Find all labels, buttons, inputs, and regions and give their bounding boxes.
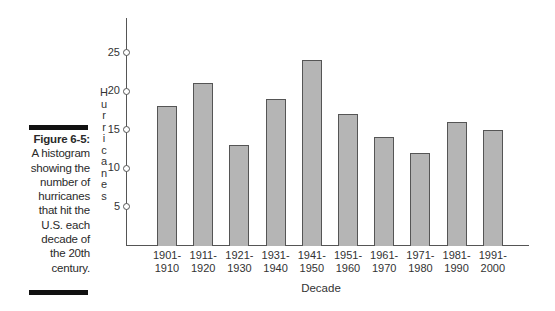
y-tick-label: 15 bbox=[100, 123, 120, 135]
bar-1901-1910 bbox=[157, 106, 177, 246]
x-tick-label-line: 1930 bbox=[219, 262, 259, 275]
y-tick-label: 20 bbox=[100, 84, 120, 96]
x-tick-label: 1951-1960 bbox=[328, 249, 368, 275]
bar-1971-1980 bbox=[410, 153, 430, 246]
histogram-chart: Hurricanes 510152025 1901-19101911-19201… bbox=[0, 0, 555, 311]
x-tick-label-line: 1931- bbox=[256, 249, 296, 262]
x-tick-label: 1911-1920 bbox=[183, 249, 223, 275]
y-tick-marker bbox=[123, 49, 130, 56]
x-tick-label: 1961-1970 bbox=[364, 249, 404, 275]
bar-1921-1930 bbox=[229, 145, 249, 246]
y-axis-title: Hurricanes bbox=[99, 87, 109, 202]
x-tick-label: 1901-1910 bbox=[147, 249, 187, 275]
y-tick-label: 5 bbox=[100, 200, 120, 212]
x-tick-label: 1931-1940 bbox=[256, 249, 296, 275]
y-tick-label: 10 bbox=[100, 161, 120, 173]
x-tick-label-line: 1960 bbox=[328, 262, 368, 275]
y-tick-marker bbox=[123, 126, 130, 133]
x-tick-label-line: 1901- bbox=[147, 249, 187, 262]
x-tick-label-line: 1970 bbox=[364, 262, 404, 275]
x-tick-label-line: 1940 bbox=[256, 262, 296, 275]
y-tick-label: 25 bbox=[100, 46, 120, 58]
y-axis-title-letter: r bbox=[99, 110, 109, 122]
y-axis-title-letter: i bbox=[99, 133, 109, 145]
x-tick-label-line: 2000 bbox=[473, 262, 513, 275]
x-axis bbox=[126, 245, 529, 246]
x-tick-label: 1971-1980 bbox=[400, 249, 440, 275]
bar-1991-2000 bbox=[483, 130, 503, 247]
x-tick-label-line: 1921- bbox=[219, 249, 259, 262]
y-tick-marker bbox=[123, 165, 130, 172]
x-axis-title: Decade bbox=[296, 282, 346, 294]
y-tick-marker bbox=[123, 203, 130, 210]
x-tick-label: 1981-1990 bbox=[437, 249, 477, 275]
x-tick-label-line: 1951- bbox=[328, 249, 368, 262]
x-tick-label-line: 1961- bbox=[364, 249, 404, 262]
bar-1981-1990 bbox=[447, 122, 467, 246]
x-tick-label: 1941-1950 bbox=[292, 249, 332, 275]
x-tick-label: 1991-2000 bbox=[473, 249, 513, 275]
x-tick-label-line: 1920 bbox=[183, 262, 223, 275]
bar-1941-1950 bbox=[302, 60, 322, 246]
bar-1961-1970 bbox=[374, 137, 394, 246]
x-tick-label-line: 1971- bbox=[400, 249, 440, 262]
x-tick-label-line: 1981- bbox=[437, 249, 477, 262]
x-tick-label-line: 1911- bbox=[183, 249, 223, 262]
x-tick-label-line: 1910 bbox=[147, 262, 187, 275]
x-tick-label: 1921-1930 bbox=[219, 249, 259, 275]
y-axis-title-letter: e bbox=[99, 179, 109, 191]
y-tick-marker bbox=[123, 88, 130, 95]
bar-1911-1920 bbox=[193, 83, 213, 246]
x-tick-label-line: 1950 bbox=[292, 262, 332, 275]
x-tick-label-line: 1980 bbox=[400, 262, 440, 275]
x-tick-label-line: 1941- bbox=[292, 249, 332, 262]
bar-1951-1960 bbox=[338, 114, 358, 246]
x-tick-label-line: 1990 bbox=[437, 262, 477, 275]
x-tick-label-line: 1991- bbox=[473, 249, 513, 262]
bar-1931-1940 bbox=[266, 99, 286, 246]
